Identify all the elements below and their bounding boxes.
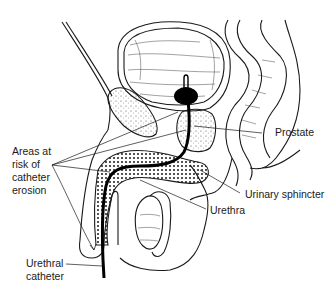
label-prostate: Prostate	[275, 126, 314, 139]
label-urethral-catheter: Urethral catheter	[26, 257, 64, 283]
bladder-inner	[124, 28, 224, 105]
prostate	[177, 109, 216, 151]
label-line: risk of	[12, 158, 51, 171]
catheter-tip	[184, 75, 188, 88]
abdominal-wall	[62, 22, 110, 130]
catheter-balloon	[174, 87, 198, 105]
leader-lines	[52, 112, 262, 266]
label-areas-at-risk: Areas at risk of catheter erosion	[12, 145, 51, 197]
label-line: erosion	[12, 184, 51, 197]
label-urinary-sphincter: Urinary sphincter	[245, 188, 324, 201]
epididymis	[150, 192, 171, 257]
label-urethra: Urethra	[210, 204, 245, 217]
pubic-bone	[108, 88, 157, 137]
label-line: catheter	[12, 171, 51, 184]
anatomy-drawing	[0, 0, 335, 287]
label-line: Urethral	[26, 257, 64, 270]
testis	[135, 196, 162, 249]
label-line: catheter	[26, 270, 64, 283]
label-line: Areas at	[12, 145, 51, 158]
rectum	[225, 20, 249, 186]
